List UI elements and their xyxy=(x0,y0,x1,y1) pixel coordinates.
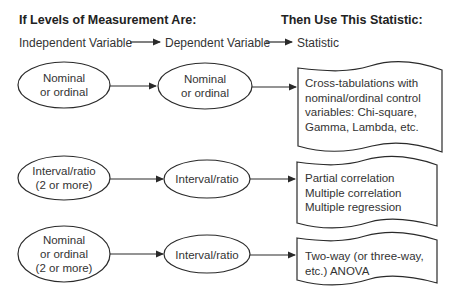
row3-independent-label: Nominal or ordinal (2 or more) xyxy=(36,233,93,275)
row2-dependent-label: Interval/ratio xyxy=(175,172,238,186)
row2-statistic-text: Partial correlation Multiple correlation… xyxy=(305,171,402,215)
row3-statistic-text: Two-way (or three-way, etc.) ANOVA xyxy=(305,249,424,278)
row1-independent-label: Nominal or ordinal xyxy=(40,71,88,99)
row1-statistic-text: Cross-tabulations with nominal/ordinal c… xyxy=(305,76,421,134)
row1-dependent-label: Nominal or ordinal xyxy=(181,72,229,100)
row3-dependent-label: Interval/ratio xyxy=(175,248,238,262)
row2-independent-label: Interval/ratio (2 or more) xyxy=(32,164,95,192)
